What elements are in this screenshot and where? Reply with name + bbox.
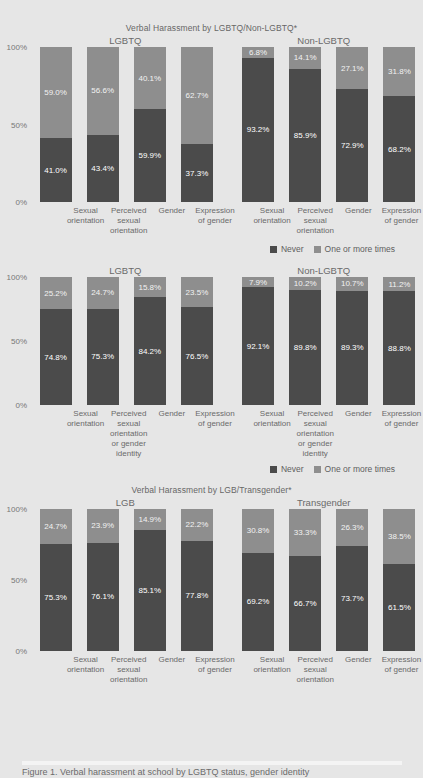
bar-segment-never: 84.2%: [134, 297, 166, 405]
bar-segment-one-or-more: 7.9%: [242, 277, 274, 287]
bar-column: 14.9%85.1%: [126, 509, 173, 651]
legend-label-never: Never: [281, 244, 304, 254]
bar-value-label: 14.9%: [138, 515, 161, 524]
chart-3-bars-transgender: 30.8%69.2%33.3%66.7%26.3%73.7%38.5%61.5%: [228, 509, 423, 651]
bar-segment-one-or-more: 33.3%: [289, 509, 321, 556]
bar-column: 59.0%41.0%: [32, 47, 79, 202]
bar-value-label: 59.9%: [138, 151, 161, 160]
bar-segment-never: 74.8%: [40, 309, 72, 405]
chart-2-plot: 100% 50% 0% 25.2%74.8%24.7%75.3%15.8%84.…: [0, 277, 423, 405]
legend-label-one-or-more: One or more times: [325, 464, 395, 474]
y-tick-50: 50%: [11, 337, 27, 346]
stacked-bar[interactable]: 23.5%76.5%: [181, 277, 213, 405]
bar-column: 40.1%59.9%: [126, 47, 173, 202]
x-axis-category-label: Expression of gender: [380, 409, 423, 459]
bar-column: 33.3%66.7%: [282, 509, 329, 651]
bar-value-label: 69.2%: [247, 597, 270, 606]
stacked-bar[interactable]: 26.3%73.7%: [336, 509, 368, 651]
legend-label-one-or-more: One or more times: [325, 244, 395, 254]
stacked-bar[interactable]: 6.8%93.2%: [242, 47, 274, 202]
bar-value-label: 85.9%: [294, 131, 317, 140]
stacked-bar[interactable]: 14.1%85.9%: [289, 47, 321, 202]
bar-column: 23.5%76.5%: [173, 277, 220, 405]
chart-panel-1: Verbal Harassment by LGBTQ/Non-LGBTQ* LG…: [0, 22, 423, 256]
bar-segment-never: 85.9%: [289, 69, 321, 202]
chart-2-bars-lgbtq: 25.2%74.8%24.7%75.3%15.8%84.2%23.5%76.5%: [32, 277, 228, 405]
chart-2-legend: Never One or more times: [0, 462, 423, 476]
bar-segment-one-or-more: 14.1%: [289, 47, 321, 69]
x-axis-category-label: Gender: [150, 655, 193, 685]
legend-item-never: Never: [270, 464, 304, 474]
x-axis-category-label: Sexual orientation: [251, 655, 294, 685]
stacked-bar[interactable]: 27.1%72.9%: [336, 47, 368, 202]
bar-value-label: 7.9%: [249, 278, 267, 287]
bar-value-label: 61.5%: [388, 603, 411, 612]
stacked-bar[interactable]: 14.9%85.1%: [134, 509, 166, 651]
stacked-bar[interactable]: 30.8%69.2%: [242, 509, 274, 651]
bar-segment-never: 76.1%: [87, 543, 119, 651]
stacked-bar[interactable]: 7.9%92.1%: [242, 277, 274, 405]
chart-1-bars-lgbtq: 59.0%41.0%56.6%43.4%40.1%59.9%62.7%37.3%: [32, 47, 228, 202]
stacked-bar[interactable]: 31.8%68.2%: [383, 47, 415, 202]
legend-item-one-or-more: One or more times: [314, 244, 395, 254]
bar-column: 10.2%89.8%: [282, 277, 329, 405]
chart-panel-2: LGBTQ Non-LGBTQ 100% 50% 0% 25.2%74.8%24…: [0, 264, 423, 476]
x-axis-category-label: Sexual orientation: [64, 409, 107, 459]
stacked-bar[interactable]: 24.7%75.3%: [87, 277, 119, 405]
bar-column: 30.8%69.2%: [235, 509, 282, 651]
bar-value-label: 59.0%: [44, 88, 67, 97]
bar-segment-never: 41.0%: [40, 138, 72, 202]
stacked-bar[interactable]: 33.3%66.7%: [289, 509, 321, 651]
y-tick-0: 0%: [15, 647, 27, 656]
stacked-bar[interactable]: 15.8%84.2%: [134, 277, 166, 405]
bar-value-label: 30.8%: [247, 526, 270, 535]
bar-value-label: 24.7%: [44, 522, 67, 531]
chart-1-y-axis: 100% 50% 0%: [0, 47, 30, 202]
stacked-bar[interactable]: 11.2%88.8%: [383, 277, 415, 405]
bar-segment-never: 76.5%: [181, 307, 213, 405]
bar-value-label: 76.1%: [91, 592, 114, 601]
bar-value-label: 15.8%: [138, 283, 161, 292]
bar-segment-one-or-more: 23.5%: [181, 277, 213, 307]
chart-2-x-labels-lgbtq: Sexual orientationPerceived sexual orien…: [32, 409, 244, 459]
bar-segment-one-or-more: 10.2%: [289, 277, 321, 290]
bar-value-label: 89.3%: [341, 343, 364, 352]
chart-3-group-titles: LGB Transgender: [0, 496, 423, 509]
chart-1-x-labels-lgbtq: Sexual orientationPerceived sexual orien…: [32, 206, 244, 236]
x-axis-category-label: Perceived sexual orientation: [107, 655, 150, 685]
legend-swatch-never-icon: [270, 466, 277, 473]
bar-segment-one-or-more: 56.6%: [87, 47, 119, 135]
stacked-bar[interactable]: 40.1%59.9%: [134, 47, 166, 202]
bar-segment-one-or-more: 24.7%: [40, 509, 72, 544]
stacked-bar[interactable]: 22.2%77.8%: [181, 509, 213, 651]
stacked-bar[interactable]: 38.5%61.5%: [383, 509, 415, 651]
bar-value-label: 92.1%: [247, 342, 270, 351]
stacked-bar[interactable]: 56.6%43.4%: [87, 47, 119, 202]
bar-segment-one-or-more: 59.0%: [40, 47, 72, 138]
x-axis-category-label: Gender: [150, 206, 193, 236]
x-axis-category-label: Perceived sexual orientation or gender i…: [107, 409, 150, 459]
legend-item-never: Never: [270, 244, 304, 254]
bar-column: 6.8%93.2%: [235, 47, 282, 202]
chart-2-x-labels-nonlgbtq: Sexual orientationPerceived sexual orien…: [244, 409, 423, 459]
stacked-bar[interactable]: 23.9%76.1%: [87, 509, 119, 651]
bar-segment-never: 89.3%: [336, 291, 368, 405]
bar-value-label: 56.6%: [91, 86, 114, 95]
stacked-bar[interactable]: 10.7%89.3%: [336, 277, 368, 405]
bar-column: 23.9%76.1%: [79, 509, 126, 651]
stacked-bar[interactable]: 59.0%41.0%: [40, 47, 72, 202]
bar-column: 7.9%92.1%: [235, 277, 282, 405]
legend-swatch-never-icon: [270, 246, 277, 253]
bar-segment-never: 92.1%: [242, 287, 274, 405]
stacked-bar[interactable]: 62.7%37.3%: [181, 47, 213, 202]
stacked-bar[interactable]: 25.2%74.8%: [40, 277, 72, 405]
bar-value-label: 22.2%: [186, 520, 209, 529]
stacked-bar[interactable]: 24.7%75.3%: [40, 509, 72, 651]
stacked-bar[interactable]: 10.2%89.8%: [289, 277, 321, 405]
x-axis-category-label: Expression of gender: [193, 409, 236, 459]
bar-value-label: 88.8%: [388, 344, 411, 353]
bar-value-label: 75.3%: [44, 593, 67, 602]
x-axis-category-label: Sexual orientation: [64, 655, 107, 685]
bar-segment-one-or-more: 22.2%: [181, 509, 213, 541]
bar-value-label: 66.7%: [294, 599, 317, 608]
